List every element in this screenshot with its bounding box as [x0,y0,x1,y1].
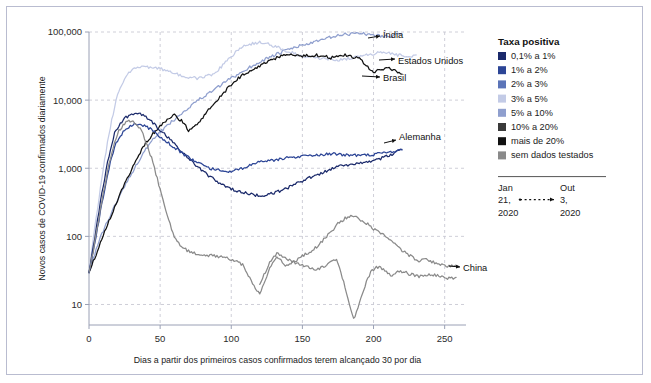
legend-swatch[interactable] [498,52,506,60]
legend-date-start-line: 2020 [498,208,518,218]
legend-swatch[interactable] [498,151,506,159]
legend-swatch[interactable] [498,80,506,88]
legend-item-label[interactable]: 3% a 5% [511,94,548,104]
legend-date-start-line: 21, [498,195,511,205]
legend-date-start-line: Jan [498,183,513,193]
legend-date-end-line: Out [560,183,575,193]
legend-item-label[interactable]: mais de 20% [511,136,564,146]
legend-item-label[interactable]: sem dados testados [511,150,594,160]
legend-item-label[interactable]: 1% a 2% [511,65,548,75]
legend-date-end-line: 3, [560,195,568,205]
legend-item-label[interactable]: 5% a 10% [511,108,553,118]
legend-title: Taxa positiva [498,36,560,47]
legend-swatch[interactable] [498,137,506,145]
legend-date-arrow-start [519,198,521,200]
legend-date-end-line: 2020 [560,208,580,218]
legend-item-label[interactable]: 2% a 3% [511,79,548,89]
legend-swatch[interactable] [498,95,506,103]
legend-item-label[interactable]: 10% a 20% [511,122,558,132]
legend-swatch[interactable] [498,109,506,117]
legend-swatch[interactable] [498,66,506,74]
legend-swatch[interactable] [498,123,506,131]
chart-figure: 101001,00010,000100,000050100150200250Di… [0,0,651,383]
chart-legend: Taxa positiva0,1% a 1%1% a 2%2% a 3%3% a… [0,0,651,383]
legend-item-label[interactable]: 0,1% a 1% [511,51,555,61]
